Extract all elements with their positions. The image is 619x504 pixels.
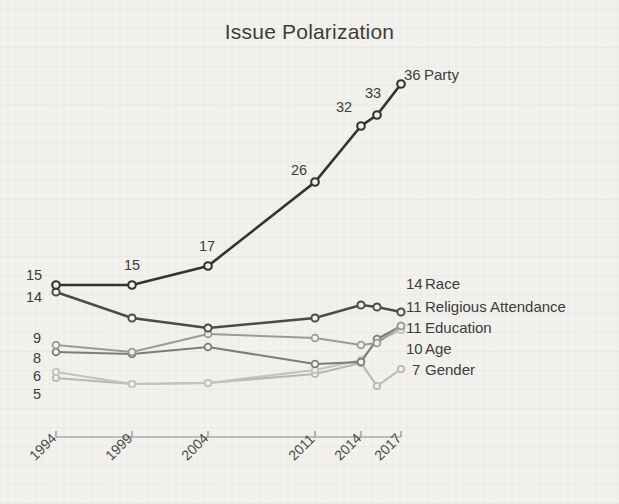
end-label-gender-value: 7 xyxy=(412,362,420,377)
point-label-party-2004: 17 xyxy=(199,239,215,254)
series-line-age xyxy=(53,327,404,387)
start-label-race: 14 xyxy=(26,290,42,305)
chart-plot-area xyxy=(0,0,619,504)
series-line-gender xyxy=(53,360,404,389)
point-label-party-2011: 26 xyxy=(291,163,307,178)
point-label-party-2014: 32 xyxy=(336,100,352,115)
end-label-gender-name: Gender xyxy=(425,362,475,377)
end-label-education-name: Education xyxy=(425,320,492,335)
point-label-party-2015: 33 xyxy=(365,86,381,101)
issue-polarization-chart: Issue Polarization xyxy=(0,0,619,504)
end-label-age-name: Age xyxy=(425,341,452,356)
start-label-religious-attendance: 9 xyxy=(33,331,41,346)
start-label-party: 15 xyxy=(26,268,42,283)
point-label-party-1999: 15 xyxy=(124,258,140,273)
series-line-education xyxy=(53,323,405,368)
start-label-gender: 5 xyxy=(33,387,41,402)
start-label-education: 8 xyxy=(33,351,41,366)
end-label-education-value: 11 xyxy=(406,320,422,335)
end-label-party-name: Party xyxy=(424,67,459,82)
end-label-religious-attendance-name: Religious Attendance xyxy=(425,299,566,314)
end-label-age-value: 10 xyxy=(406,341,423,356)
end-label-party-value: 36 xyxy=(404,67,421,82)
end-label-race-name: Race xyxy=(425,276,460,291)
series-line-race xyxy=(52,288,404,331)
start-label-age: 6 xyxy=(33,369,41,384)
end-label-religious-attendance-value: 11 xyxy=(406,299,422,314)
end-label-race-value: 14 xyxy=(406,276,423,291)
